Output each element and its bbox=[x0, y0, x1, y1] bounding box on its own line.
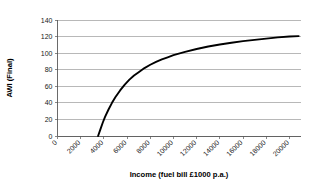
chart-canvas: 0200040006000800010000120001400016000180… bbox=[0, 0, 315, 183]
horizontal-gridlines bbox=[58, 20, 302, 136]
x-tick-label-10000: 10000 bbox=[155, 139, 174, 158]
y-tick-label-40: 40 bbox=[45, 99, 53, 106]
y-tick-label-80: 80 bbox=[45, 66, 53, 73]
x-tick-label-16000: 16000 bbox=[225, 139, 244, 158]
x-tick-label-8000: 8000 bbox=[135, 139, 151, 155]
x-axis-tick-labels: 0200040006000800010000120001400016000180… bbox=[50, 139, 290, 158]
y-tick-label-0: 0 bbox=[49, 133, 53, 140]
y-tick-label-100: 100 bbox=[41, 50, 53, 57]
y-axis-tick-labels: 020406080100120140 bbox=[41, 17, 53, 140]
y-tick-label-60: 60 bbox=[45, 83, 53, 90]
x-tick-label-20000: 20000 bbox=[271, 139, 290, 158]
x-tick-label-12000: 12000 bbox=[179, 139, 198, 158]
y-tick-label-140: 140 bbox=[41, 17, 53, 24]
x-tick-label-4000: 4000 bbox=[89, 139, 105, 155]
chart-figure: 0200040006000800010000120001400016000180… bbox=[0, 0, 315, 183]
x-axis-title: Income (fuel bill £1000 p.a.) bbox=[130, 170, 229, 179]
x-tick-label-6000: 6000 bbox=[112, 139, 128, 155]
y-axis-title: AWI (Final) bbox=[5, 58, 14, 98]
x-tick-label-18000: 18000 bbox=[248, 139, 267, 158]
x-tick-label-2000: 2000 bbox=[65, 139, 81, 155]
y-tick-label-20: 20 bbox=[45, 116, 53, 123]
y-tick-label-120: 120 bbox=[41, 33, 53, 40]
x-tick-label-14000: 14000 bbox=[202, 139, 221, 158]
x-tick-label-0: 0 bbox=[50, 139, 58, 147]
